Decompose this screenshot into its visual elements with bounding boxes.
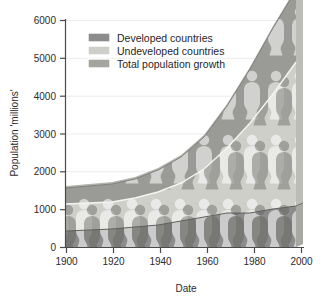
y-tick-label: 1000 <box>34 204 57 215</box>
legend-label-undeveloped: Undeveloped countries <box>117 45 224 57</box>
chart-canvas: 6000 5000 4000 3000 2000 1000 0 1900 192… <box>0 0 336 304</box>
y-tick-label: 0 <box>50 242 56 253</box>
x-axis-title: Date <box>175 283 197 294</box>
developed-right-side-face <box>296 203 303 247</box>
legend-swatch-undeveloped <box>88 46 110 55</box>
x-tick-label: 2000 <box>290 256 313 267</box>
x-tick-label: 1940 <box>149 256 172 267</box>
y-tick-label: 3000 <box>34 129 57 140</box>
x-tick-label: 1900 <box>55 256 78 267</box>
legend-label-developed: Developed countries <box>117 32 213 44</box>
legend-item-developed[interactable]: Developed countries <box>88 32 213 44</box>
x-tick-label: 1980 <box>243 256 266 267</box>
legend-item-undeveloped[interactable]: Undeveloped countries <box>88 45 224 57</box>
y-tick-label: 5000 <box>34 53 57 64</box>
y-axis-title: Population 'millions' <box>9 89 20 176</box>
x-tick-label: 1960 <box>196 256 219 267</box>
legend-label-total: Total population growth <box>117 58 225 70</box>
chart-legend: Developed countries Undeveloped countrie… <box>88 32 225 70</box>
y-tick-label: 4000 <box>34 91 57 102</box>
x-tick-label: 1920 <box>102 256 125 267</box>
y-tick-label: 6000 <box>34 15 57 26</box>
legend-swatch-developed <box>88 33 110 42</box>
legend-swatch-total <box>88 59 110 68</box>
y-tick-label: 2000 <box>34 166 57 177</box>
legend-item-total[interactable]: Total population growth <box>88 58 225 70</box>
population-growth-chart: 6000 5000 4000 3000 2000 1000 0 1900 192… <box>0 0 336 304</box>
